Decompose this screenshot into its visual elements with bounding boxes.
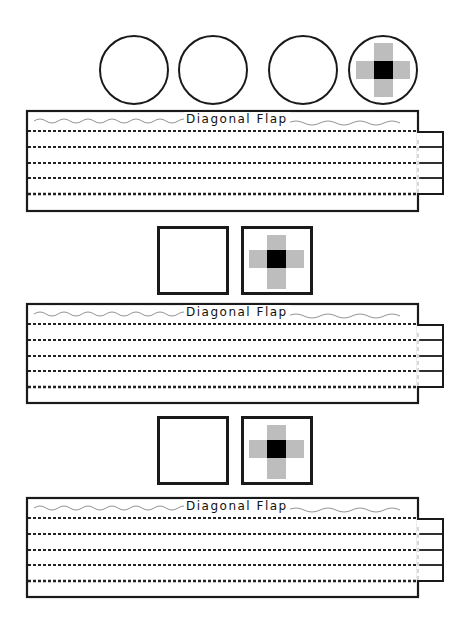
strip-3-label: Diagonal Flap <box>184 499 290 513</box>
square-1-marked <box>241 226 313 295</box>
strip-1-label: Diagonal Flap <box>184 112 290 126</box>
circle-4 <box>348 35 418 105</box>
square-1-blank <box>157 226 229 295</box>
square-2-blank <box>157 416 229 485</box>
circle-3 <box>268 35 338 105</box>
circle-2 <box>178 35 248 105</box>
circle-1 <box>99 35 169 105</box>
strip-2-label: Diagonal Flap <box>184 305 290 319</box>
square-2-marked <box>241 416 313 485</box>
